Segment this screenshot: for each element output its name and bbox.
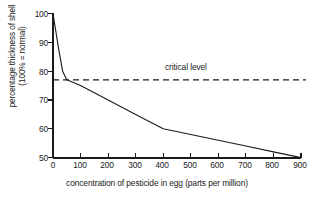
x-axis-ticks xyxy=(53,153,301,158)
chart-figure: percentage thickness of shell (100% = no… xyxy=(0,0,314,200)
axes-group xyxy=(53,13,301,158)
plot-svg xyxy=(0,0,314,200)
y-axis-ticks xyxy=(48,14,53,158)
x-axis-label: concentration of pesticide in egg (parts… xyxy=(0,178,314,188)
shell-thickness-curve xyxy=(53,14,301,158)
